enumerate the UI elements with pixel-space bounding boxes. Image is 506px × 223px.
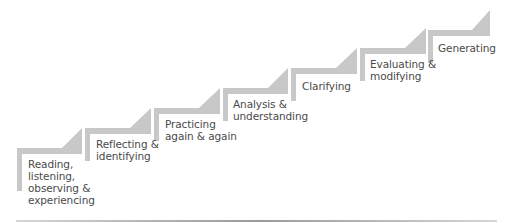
step-label-clarifying: Clarifying — [302, 80, 351, 92]
step-shape — [428, 10, 490, 63]
step-shape — [291, 48, 357, 101]
step-label-analysis: Analysis & understanding — [233, 98, 308, 122]
step-label-practicing: Practicing again & again — [165, 118, 237, 142]
step-label-evaluating: Evaluating & modifying — [370, 58, 436, 82]
step-label-reflecting: Reflecting & identifying — [96, 138, 159, 162]
bottom-separator-line — [16, 220, 497, 222]
learning-staircase-diagram: Reading, listening, observing & experien… — [0, 0, 506, 223]
step-label-reading: Reading, listening, observing & experien… — [28, 158, 95, 206]
step-label-generating: Generating — [438, 42, 496, 54]
